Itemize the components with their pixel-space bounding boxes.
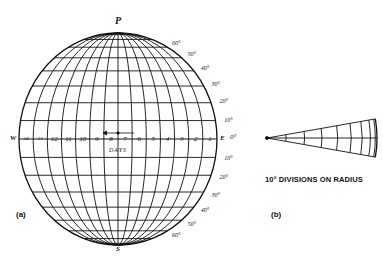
day-label: 1 [208,136,212,143]
day-label: 11 [65,136,71,143]
day-label: 10 [79,136,86,143]
panel-label-b: (b) [271,210,281,219]
latitude-label: 20° [219,98,227,104]
day-label: 7 [123,136,127,143]
day-label: 9 [95,136,99,143]
latitude-label: 50° [187,221,195,227]
radius-caption: 10° DIVISIONS ON RADIUS [265,175,363,184]
south-pole-label: S [116,246,120,253]
day-label: 12 [51,136,58,143]
latitude-label: 30° [212,81,220,87]
equator-label: 0° [230,134,236,141]
panel-label-a: (a) [16,210,26,219]
latitude-label: 60° [172,232,180,238]
day-label: 5 [152,136,156,143]
latitude-label: 20° [219,174,227,180]
east-label: E [220,135,225,142]
latitude-label: 10° [224,117,232,123]
latitude-label: 10° [224,155,232,161]
west-label: W [10,135,16,142]
day-label: 4 [166,136,170,143]
day-label: 3 [180,136,184,143]
north-pole-label: P [115,16,121,26]
day-label: 6 [137,136,141,143]
latitude-label: 40° [201,65,209,71]
latitude-label: 50° [187,51,195,57]
latitude-label: 60° [172,40,180,46]
day-label: 14 [24,136,29,141]
day-label: 8 [109,136,113,143]
globe-diagram [0,0,383,257]
days-label: DAYS [109,147,127,153]
day-label: 2 [194,136,198,143]
day-label: 13 [38,136,43,141]
latitude-label: 30° [212,192,220,198]
latitude-label: 40° [201,207,209,213]
